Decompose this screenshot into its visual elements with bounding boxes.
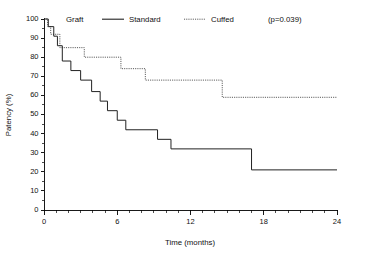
y-tick-label: 30 (30, 148, 38, 157)
y-tick-label: 100 (26, 14, 39, 23)
x-axis-title: Time (months) (165, 238, 215, 247)
y-tick-label: 60 (30, 90, 38, 99)
series-line-standard (44, 19, 337, 170)
y-axis: 0102030405060708090100 Patency (%) (4, 14, 44, 214)
chart-canvas: 0102030405060708090100 Patency (%) 06121… (0, 0, 366, 253)
y-tick-label: 20 (30, 167, 38, 176)
x-axis-ticks: 06121824 (42, 210, 341, 226)
y-axis-ticks: 0102030405060708090100 (26, 14, 44, 214)
y-tick-label: 90 (30, 33, 38, 42)
x-tick-label: 6 (115, 217, 119, 226)
chart-legend: Graft Standard Cuffed (p=0.039) (66, 15, 302, 24)
y-axis-title: Patency (%) (4, 93, 13, 136)
x-tick-label: 0 (42, 217, 46, 226)
p-value-annotation: (p=0.039) (268, 15, 302, 24)
y-tick-label: 0 (34, 205, 38, 214)
y-tick-label: 50 (30, 109, 38, 118)
x-tick-label: 12 (186, 217, 194, 226)
x-tick-label: 18 (260, 217, 268, 226)
kaplan-meier-chart: 0102030405060708090100 Patency (%) 06121… (0, 0, 366, 253)
x-tick-label: 24 (333, 217, 341, 226)
y-tick-label: 80 (30, 52, 38, 61)
y-tick-label: 40 (30, 129, 38, 138)
legend-title: Graft (66, 15, 84, 24)
series-line-cuffed (44, 19, 337, 97)
legend-label-cuffed: Cuffed (211, 15, 234, 24)
plot-series (44, 19, 337, 170)
y-tick-label: 10 (30, 186, 38, 195)
y-tick-label: 70 (30, 71, 38, 80)
legend-label-standard: Standard (129, 15, 161, 24)
x-axis: 06121824 Time (months) (42, 210, 341, 247)
